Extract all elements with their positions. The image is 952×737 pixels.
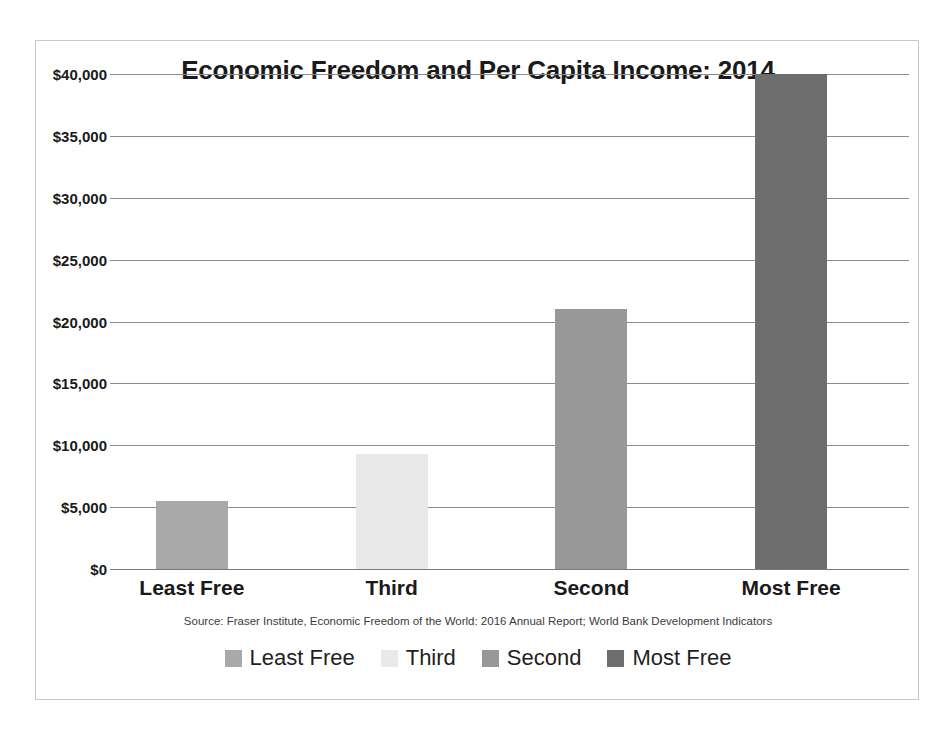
bar-second [555, 309, 627, 569]
x-axis-label-third: Third [292, 576, 492, 600]
bar-least-free [156, 501, 228, 569]
legend-item[interactable]: Least Free [225, 645, 355, 671]
chart-container: Economic Freedom and Per Capita Income: … [35, 40, 919, 700]
legend-label: Least Free [250, 645, 355, 671]
legend-label: Third [406, 645, 456, 671]
legend-swatch-icon [381, 650, 398, 667]
y-axis-tick-label: $25,000 [0, 251, 107, 268]
y-axis-tick-label: $10,000 [0, 437, 107, 454]
plot-area: $0$5,000$10,000$15,000$20,000$25,000$30,… [110, 74, 909, 569]
y-axis-tick-label: $15,000 [0, 375, 107, 392]
x-axis-label-least-free: Least Free [92, 576, 292, 600]
y-axis-tick-label: $20,000 [0, 313, 107, 330]
legend-label: Most Free [632, 645, 731, 671]
x-axis-label-second: Second [492, 576, 692, 600]
y-axis-tick-label: $5,000 [0, 499, 107, 516]
legend-item[interactable]: Most Free [607, 645, 731, 671]
chart-legend: Least FreeThirdSecondMost Free [36, 645, 920, 671]
gridline [110, 569, 909, 570]
legend-swatch-icon [482, 650, 499, 667]
legend-item[interactable]: Third [381, 645, 456, 671]
bar-most-free [755, 74, 827, 569]
legend-label: Second [507, 645, 582, 671]
y-axis-tick-label: $0 [0, 561, 107, 578]
y-axis-tick-label: $40,000 [0, 66, 107, 83]
x-axis-label-most-free: Most Free [691, 576, 891, 600]
y-axis-tick-label: $30,000 [0, 189, 107, 206]
source-note: Source: Fraser Institute, Economic Freed… [36, 615, 920, 627]
bar-third [356, 454, 428, 569]
legend-swatch-icon [225, 650, 242, 667]
legend-swatch-icon [607, 650, 624, 667]
y-axis-tick-label: $35,000 [0, 127, 107, 144]
legend-item[interactable]: Second [482, 645, 582, 671]
